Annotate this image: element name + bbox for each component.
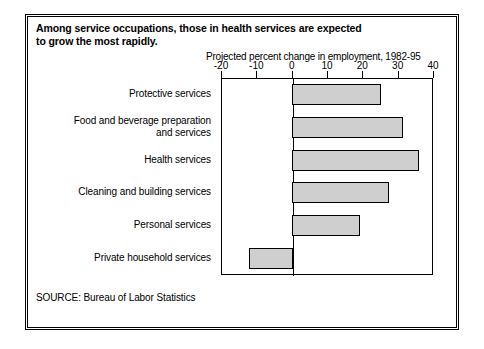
x-tick-label-20: 20 bbox=[357, 60, 368, 71]
category-label-line: Private household services bbox=[94, 252, 211, 264]
category-label-line: Health services bbox=[144, 154, 211, 166]
x-tick--20 bbox=[221, 71, 222, 78]
chart-title-line-1: Among service occupations, those in heal… bbox=[36, 22, 396, 35]
x-tick-label-10: 10 bbox=[321, 60, 332, 71]
x-tick-20 bbox=[362, 71, 363, 78]
x-tick-30 bbox=[398, 71, 399, 78]
bar bbox=[292, 117, 403, 138]
category-label-line: and services bbox=[74, 127, 211, 139]
x-tick-label--20: -20 bbox=[214, 60, 228, 71]
chart-title-line-2: to grow the most rapidly. bbox=[36, 35, 396, 48]
x-tick-10 bbox=[327, 71, 328, 78]
category-label-line: Cleaning and building services bbox=[78, 186, 211, 198]
category-label: Food and beverage preparationand service… bbox=[74, 115, 211, 139]
x-tick-0 bbox=[292, 71, 293, 78]
chart-title: Among service occupations, those in heal… bbox=[36, 22, 396, 48]
x-tick-40 bbox=[433, 71, 434, 78]
category-label: Cleaning and building services bbox=[78, 186, 211, 198]
x-tick--10 bbox=[256, 71, 257, 78]
bar bbox=[292, 215, 361, 236]
chart-page: Among service occupations, those in heal… bbox=[0, 0, 484, 349]
category-label: Protective services bbox=[129, 88, 211, 100]
category-label: Health services bbox=[144, 154, 211, 166]
bar bbox=[292, 84, 382, 105]
bar bbox=[292, 182, 389, 203]
x-tick-label-40: 40 bbox=[427, 60, 438, 71]
bar-series bbox=[221, 78, 433, 275]
category-labels: Protective servicesFood and beverage pre… bbox=[54, 78, 217, 275]
category-label-line: Personal services bbox=[134, 219, 211, 231]
category-label: Private household services bbox=[94, 252, 211, 264]
source-note: SOURCE: Bureau of Labor Statistics bbox=[36, 292, 195, 303]
x-tick-label-30: 30 bbox=[392, 60, 403, 71]
chart-frame: Among service occupations, those in heal… bbox=[25, 14, 459, 330]
category-label-line: Food and beverage preparation bbox=[74, 115, 211, 127]
category-label-line: Protective services bbox=[129, 88, 211, 100]
x-tick-label-0: 0 bbox=[289, 60, 295, 71]
category-label: Personal services bbox=[134, 219, 211, 231]
bar bbox=[249, 248, 293, 269]
x-tick-label--10: -10 bbox=[249, 60, 263, 71]
bar bbox=[292, 150, 419, 171]
